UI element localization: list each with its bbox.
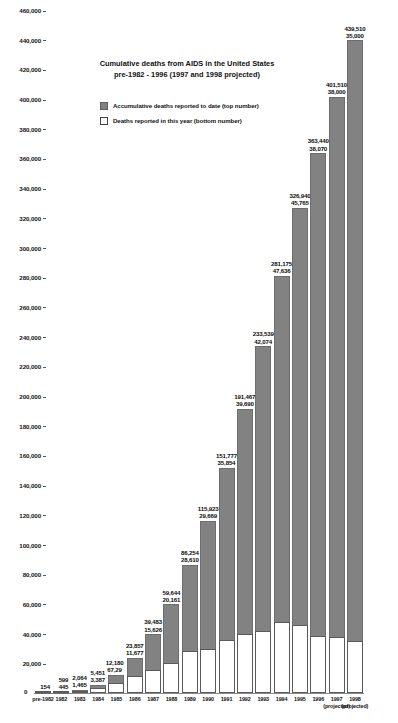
bar-value-labels: 191,46739,690 [234, 393, 255, 407]
bar-label-this-year: 42,074 [253, 338, 274, 345]
bar-segment-this-year [35, 691, 51, 693]
bar-value-labels: 59,64420,161 [163, 589, 181, 603]
legend-item: Accumulative deaths reported to date (to… [100, 99, 330, 112]
bar-label-this-year: 28,610 [181, 556, 199, 563]
bar-label-cumulative: 439,510 [344, 25, 365, 32]
bar-value-labels: 439,51035,000 [344, 25, 365, 39]
bar-segment-this-year [90, 688, 106, 693]
x-axis: pre-198219821983198419851986198719881989… [34, 696, 364, 722]
legend-item: Deaths reported in this year (bottom num… [100, 114, 330, 127]
bar-segment-cumulative [347, 40, 363, 693]
bar-segment-this-year [329, 637, 345, 693]
bar-value-labels: 12,18067,29 [106, 659, 124, 673]
legend-swatch-cum [100, 102, 108, 110]
bar-value-labels: 599445 [59, 676, 69, 690]
bar-segment-this-year [163, 663, 179, 693]
bar-segment-this-year [310, 636, 326, 693]
bar-label-cumulative: 326,940 [289, 192, 310, 199]
bar-label-this-year: 11,677 [126, 649, 144, 656]
bar-label-this-year: 20,161 [163, 596, 181, 603]
bar-label-this-year: 67,29 [106, 666, 124, 673]
bar-segment-cumulative [292, 208, 308, 693]
bar-value-labels: 115,92329,669 [198, 505, 219, 519]
bar-label-cumulative: 23,857 [126, 642, 144, 649]
legend-swatch-year [100, 117, 108, 125]
bar-label-this-year: 47,636 [271, 267, 292, 274]
x-axis-tick: 1998(projected) [340, 696, 370, 710]
bar-label-cumulative: 401,510 [326, 81, 347, 88]
chart-title: Cumulative deaths from AIDS in the Unite… [62, 59, 312, 80]
x-axis-tick-note: (projected) [340, 703, 370, 710]
bar-label-cumulative: 2,064 [72, 674, 87, 681]
bar-label-this-year: 45,765 [289, 199, 310, 206]
bar-value-labels: 281,17547,636 [271, 260, 292, 274]
bar-label-this-year: 3,387 [91, 676, 106, 683]
bar-label-cumulative: 59,644 [163, 589, 181, 596]
bar-label-this-year: 39,690 [234, 400, 255, 407]
bar-label-cumulative: 86,254 [181, 549, 199, 556]
bar-segment-this-year [274, 622, 290, 693]
bar-label-this-year: 1,465 [72, 681, 87, 688]
bar-label-this-year: 35,854 [216, 459, 237, 466]
bar-label-cumulative: 154 [40, 683, 50, 690]
bar-value-labels: 2,0641,465 [72, 674, 87, 688]
legend-label: Deaths reported in this year (bottom num… [113, 117, 242, 124]
bar-segment-this-year [72, 691, 88, 693]
bar-segment-this-year [108, 683, 124, 693]
bar-segment-this-year [347, 641, 363, 693]
aids-deaths-bar-chart: 460,000440,000420,000400,000380,000360,0… [0, 0, 398, 723]
bar-label-cumulative: 151,777 [216, 452, 237, 459]
bar-label-cumulative: 39,483 [144, 618, 162, 625]
bar-segment-this-year [219, 640, 235, 693]
bar-label-cumulative: 281,175 [271, 260, 292, 267]
legend-label: Accumulative deaths reported to date (to… [113, 102, 259, 109]
bar-segment-this-year [237, 634, 253, 693]
bar-value-labels: 233,53942,074 [253, 330, 274, 344]
bar-value-labels: 363,44038,070 [308, 137, 329, 151]
x-axis-tick-label: 1998 [349, 696, 361, 702]
bar-label-cumulative: 233,539 [253, 330, 274, 337]
bar-segment-this-year [182, 651, 198, 693]
chart-title-line2: pre-1982 - 1996 (1997 and 1998 projected… [62, 70, 312, 81]
bar-value-labels: 5,4513,387 [91, 669, 106, 683]
bar-value-labels: 23,85711,677 [126, 642, 144, 656]
bar-segment-this-year [145, 670, 161, 693]
bar-segment-cumulative [310, 153, 326, 693]
bar-segment-this-year [292, 625, 308, 693]
bar-segment-this-year [127, 676, 143, 693]
bar-value-labels: 86,25428,610 [181, 549, 199, 563]
bar-label-cumulative: 191,467 [234, 393, 255, 400]
y-axis-zero-label: 0 [24, 688, 27, 695]
bar-label-cumulative: 5,451 [91, 669, 106, 676]
bar-label-cumulative: 363,440 [308, 137, 329, 144]
bar-label-this-year: 35,000 [344, 32, 365, 39]
bar-label-cumulative: 12,180 [106, 659, 124, 666]
bar-label-this-year: 29,669 [198, 512, 219, 519]
bar-value-labels: 401,51038,000 [326, 81, 347, 95]
bar-label-this-year: 38,000 [326, 88, 347, 95]
chart-legend: Accumulative deaths reported to date (to… [100, 99, 330, 129]
bar-segment-cumulative [329, 97, 345, 693]
bar-value-labels: 39,48315,626 [144, 618, 162, 632]
bar-label-cumulative: 599 [59, 676, 69, 683]
bar-label-this-year: 445 [59, 683, 69, 690]
bar-value-labels: 151,77735,854 [216, 452, 237, 466]
bar-label-this-year: 15,626 [144, 626, 162, 633]
bar-segment-this-year [53, 691, 69, 693]
bar-value-labels: 154 [40, 683, 50, 690]
chart-title-line1: Cumulative deaths from AIDS in the Unite… [62, 59, 312, 70]
bar-value-labels: 326,94045,765 [289, 192, 310, 206]
bar-label-this-year: 38,070 [308, 145, 329, 152]
bar-segment-this-year [255, 631, 271, 693]
bar-segment-this-year [200, 649, 216, 693]
bar-label-cumulative: 115,923 [198, 505, 219, 512]
